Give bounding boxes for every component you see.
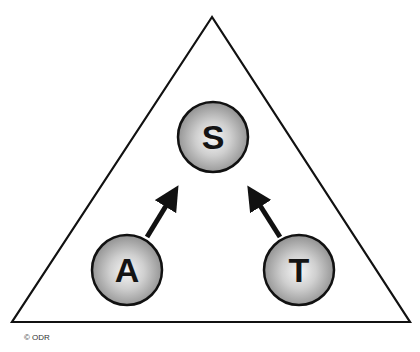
diagram-canvas: S A T [0, 0, 420, 352]
node-t-label: T [289, 251, 310, 289]
node-s-label: S [202, 118, 225, 156]
arrow-t-to-s [254, 196, 280, 237]
node-s: S [178, 102, 248, 172]
node-a: A [92, 235, 162, 305]
node-a-label: A [115, 251, 140, 289]
node-t: T [264, 235, 334, 305]
copyright-text: © ODR [24, 333, 50, 342]
arrow-a-to-s [147, 196, 172, 237]
